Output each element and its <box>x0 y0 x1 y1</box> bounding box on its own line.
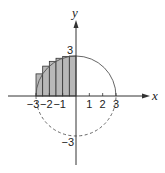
y-tick-label: −3 <box>61 136 74 148</box>
x-tick-label: 2 <box>100 98 106 110</box>
x-axis-label: x <box>151 88 158 103</box>
x-tick-label: −2 <box>40 98 53 110</box>
x-tick-label: 3 <box>113 98 119 110</box>
riemann-rectangle <box>69 56 76 96</box>
riemann-rectangles <box>36 56 76 96</box>
riemann-rectangle <box>49 61 56 96</box>
y-axis-arrow-icon <box>74 20 79 28</box>
coordinate-plane: x y −3−2−1123 3−3 <box>0 0 165 173</box>
y-tick-label: 3 <box>67 44 73 56</box>
riemann-rectangle <box>43 66 50 96</box>
x-tick-label: −1 <box>53 98 66 110</box>
riemann-rectangle <box>63 57 70 96</box>
x-axis-arrow-icon <box>142 94 150 99</box>
x-tick-label: −3 <box>27 98 40 110</box>
x-tick-labels: −3−2−1123 <box>27 98 119 110</box>
y-axis-label: y <box>70 5 78 20</box>
x-tick-label: 1 <box>86 98 92 110</box>
diagram-canvas: x y −3−2−1123 3−3 <box>0 0 165 173</box>
riemann-rectangle <box>56 58 63 96</box>
